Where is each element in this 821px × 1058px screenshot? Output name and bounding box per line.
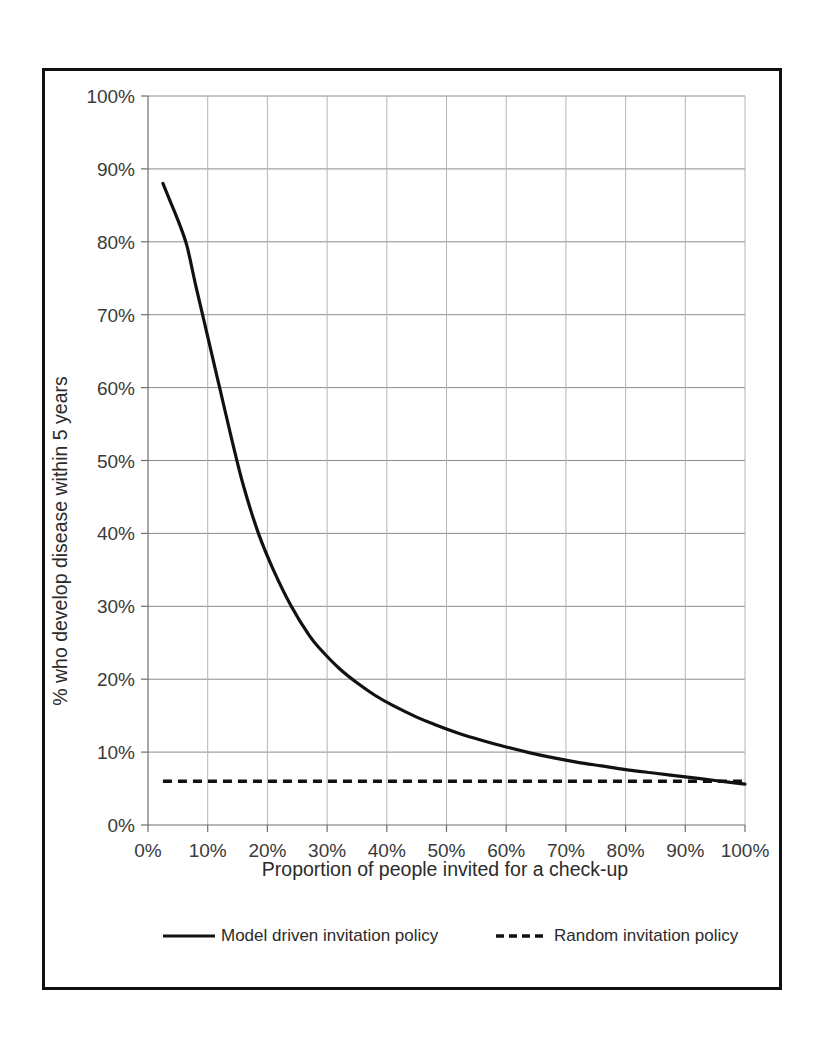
x-axis-tick-label: 0% <box>134 840 162 861</box>
chart-legend: Model driven invitation policyRandom inv… <box>163 926 739 945</box>
x-axis-tick-label: 100% <box>721 840 770 861</box>
y-axis-tick-label: 30% <box>97 596 135 617</box>
chart-canvas: 0%10%20%30%40%50%60%70%80%90%100% 0%10%2… <box>45 71 785 993</box>
y-axis-tick-label: 100% <box>86 86 135 107</box>
x-axis-tick-label: 10% <box>189 840 227 861</box>
x-axis-title: Proportion of people invited for a check… <box>262 858 629 880</box>
y-axis-tick-label: 40% <box>97 523 135 544</box>
data-series-group <box>163 183 745 784</box>
data-series-1 <box>163 183 745 784</box>
x-axis-tick-label: 90% <box>666 840 704 861</box>
y-axis-tick-label: 50% <box>97 451 135 472</box>
y-axis-tick-labels: 0%10%20%30%40%50%60%70%80%90%100% <box>86 86 135 836</box>
y-axis-tick-label: 80% <box>97 232 135 253</box>
axis-tickmarks <box>141 96 745 832</box>
chart-outer-frame: 0%10%20%30%40%50%60%70%80%90%100% 0%10%2… <box>42 68 782 990</box>
y-axis-tick-label: 10% <box>97 742 135 763</box>
legend-label-2: Random invitation policy <box>554 926 739 945</box>
y-axis-tick-label: 60% <box>97 378 135 399</box>
legend-label-1: Model driven invitation policy <box>221 926 439 945</box>
figure-root: 0%10%20%30%40%50%60%70%80%90%100% 0%10%2… <box>0 0 821 1058</box>
y-axis-tick-label: 90% <box>97 159 135 180</box>
y-axis-tick-label: 0% <box>108 815 136 836</box>
y-axis-tick-label: 70% <box>97 305 135 326</box>
y-axis-tick-label: 20% <box>97 669 135 690</box>
y-axis-title: % who develop disease within 5 years <box>49 376 71 706</box>
